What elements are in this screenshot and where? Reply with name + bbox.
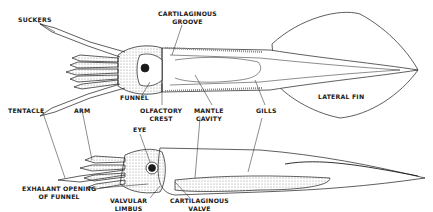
label-line: VALVE (170, 205, 229, 212)
label-line: CAVITY (194, 115, 224, 123)
label-line: CREST (140, 115, 182, 123)
label-gills: GILLS (256, 107, 277, 115)
label-line: CARTILAGINOUS (158, 10, 217, 18)
label-funnel: FUNNEL (120, 94, 149, 102)
label-line: LIMBUS (110, 205, 147, 212)
label-valvular-limbus: VALVULAR LIMBUS (110, 197, 147, 211)
squid-anatomy-diagram: SUCKERS CARTILAGINOUS GROOVE FUNNEL TENT… (0, 0, 433, 211)
label-eye: EYE (133, 126, 147, 134)
label-line: GROOVE (158, 18, 217, 26)
label-line: OLFACTORY (140, 107, 182, 115)
dorsal-squid (40, 12, 418, 118)
label-olfactory-crest: OLFACTORY CREST (140, 107, 182, 122)
label-mantle-cavity: MANTLE CAVITY (194, 107, 224, 122)
label-line: VALVULAR (110, 197, 147, 205)
label-suckers: SUCKERS (18, 16, 52, 24)
label-line: MANTLE (194, 107, 224, 115)
label-cartilaginous-groove: CARTILAGINOUS GROOVE (158, 10, 217, 25)
label-cartilaginous-valve: CARTILAGINOUS VALVE (170, 197, 229, 211)
label-tentacle: TENTACLE (8, 107, 44, 115)
label-line: EXHALANT OPENING (22, 185, 96, 193)
label-line: CARTILAGINOUS (170, 197, 229, 205)
squid-illustration (0, 0, 433, 211)
lateral-squid (58, 148, 425, 195)
label-arm: ARM (74, 107, 90, 115)
label-exhalant-opening: EXHALANT OPENING OF FUNNEL (22, 185, 96, 200)
label-lateral-fin: LATERAL FIN (318, 93, 364, 101)
label-line: OF FUNNEL (22, 193, 96, 201)
